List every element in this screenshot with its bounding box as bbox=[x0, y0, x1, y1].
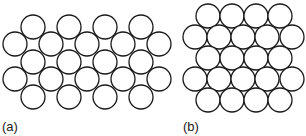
sphere-circle bbox=[244, 88, 268, 112]
sphere-circle bbox=[129, 50, 153, 74]
packing-diagram bbox=[0, 0, 306, 136]
sphere-circle bbox=[39, 32, 63, 56]
sphere-circle bbox=[21, 15, 45, 39]
sphere-circle bbox=[75, 67, 99, 91]
sphere-circle bbox=[183, 25, 207, 49]
panel-a-label: (a) bbox=[2, 119, 18, 134]
sphere-circle bbox=[57, 85, 81, 109]
panel-b-circles bbox=[183, 4, 304, 112]
sphere-circle bbox=[196, 4, 220, 28]
panel-b-label: (b) bbox=[183, 119, 199, 134]
sphere-circle bbox=[147, 32, 171, 56]
sphere-circle bbox=[39, 67, 63, 91]
sphere-circle bbox=[255, 25, 279, 49]
sphere-circle bbox=[220, 4, 244, 28]
sphere-circle bbox=[75, 32, 99, 56]
sphere-circle bbox=[220, 46, 244, 70]
sphere-circle bbox=[93, 15, 117, 39]
sphere-circle bbox=[196, 46, 220, 70]
sphere-circle bbox=[3, 67, 27, 91]
panel-a-circles bbox=[3, 15, 171, 109]
sphere-circle bbox=[111, 32, 135, 56]
sphere-circle bbox=[244, 46, 268, 70]
sphere-circle bbox=[231, 67, 255, 91]
sphere-circle bbox=[268, 46, 292, 70]
sphere-circle bbox=[3, 32, 27, 56]
sphere-circle bbox=[255, 67, 279, 91]
sphere-circle bbox=[129, 15, 153, 39]
sphere-circle bbox=[207, 25, 231, 49]
sphere-circle bbox=[280, 25, 304, 49]
sphere-circle bbox=[231, 25, 255, 49]
sphere-circle bbox=[280, 67, 304, 91]
sphere-circle bbox=[57, 50, 81, 74]
sphere-circle bbox=[268, 88, 292, 112]
sphere-circle bbox=[21, 50, 45, 74]
sphere-circle bbox=[207, 67, 231, 91]
sphere-circle bbox=[93, 50, 117, 74]
sphere-circle bbox=[57, 15, 81, 39]
sphere-circle bbox=[196, 88, 220, 112]
sphere-circle bbox=[21, 85, 45, 109]
sphere-circle bbox=[244, 4, 268, 28]
sphere-circle bbox=[220, 88, 244, 112]
sphere-circle bbox=[268, 4, 292, 28]
sphere-circle bbox=[129, 85, 153, 109]
sphere-circle bbox=[183, 67, 207, 91]
sphere-circle bbox=[93, 85, 117, 109]
sphere-circle bbox=[111, 67, 135, 91]
sphere-circle bbox=[147, 67, 171, 91]
